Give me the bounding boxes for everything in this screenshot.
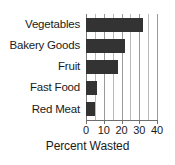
bar-chart: Vegetables Bakery Goods Fruit Fast Food … — [0, 0, 175, 165]
category-label-fruit: Fruit — [0, 56, 83, 77]
bar-fruit — [86, 60, 118, 74]
bar-vegetables — [86, 18, 143, 32]
category-label-red-meat: Red Meat — [0, 99, 83, 120]
plot-area — [86, 14, 157, 120]
bar-bakery-goods — [86, 39, 125, 53]
x-axis-title: Percent Wasted — [0, 139, 175, 153]
gridline — [157, 14, 158, 120]
bar-row — [86, 78, 157, 99]
bar-row — [86, 99, 157, 120]
bar-fast-food — [86, 81, 97, 95]
bars-group — [86, 14, 157, 120]
bar-red-meat — [86, 102, 95, 116]
x-axis-tick-labels: 010203040 — [86, 124, 157, 138]
category-label-vegetables: Vegetables — [0, 14, 83, 35]
category-label-fast-food: Fast Food — [0, 78, 83, 99]
category-label-bakery-goods: Bakery Goods — [0, 35, 83, 56]
x-axis-tick-label: 30 — [133, 124, 145, 137]
x-axis-tick-label: 40 — [151, 124, 163, 137]
bar-row — [86, 35, 157, 56]
x-axis-tick-label: 10 — [98, 124, 110, 137]
bar-row — [86, 14, 157, 35]
bar-row — [86, 56, 157, 77]
x-axis-tick-label: 20 — [115, 124, 127, 137]
x-axis-tick-label: 0 — [83, 124, 89, 137]
category-axis-labels: Vegetables Bakery Goods Fruit Fast Food … — [0, 14, 83, 120]
